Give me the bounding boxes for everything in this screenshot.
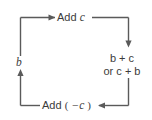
arrowhead-down-right [125, 41, 131, 48]
arrowhead-up-left [17, 69, 23, 76]
edge-label-add-c: Add c [55, 11, 87, 23]
operand-c: c [80, 11, 85, 23]
paren-open: ( [65, 99, 69, 111]
operand-neg-c: −c [71, 99, 84, 111]
edge-label-add-neg-c: Add ( −c ) [40, 99, 93, 111]
node-label-b: b [15, 56, 23, 68]
sum-line-1: b + c [95, 52, 149, 65]
cycle-diagram: Add c b + c or c + b Add ( −c ) b [0, 0, 152, 120]
add-word: Add [57, 11, 77, 23]
arrowhead-left-bottom [98, 102, 105, 108]
paren-close: ) [87, 99, 91, 111]
node-label-sum: b + c or c + b [93, 52, 151, 78]
sum-line-2: or c + b [95, 65, 149, 78]
add-word: Add [42, 99, 62, 111]
